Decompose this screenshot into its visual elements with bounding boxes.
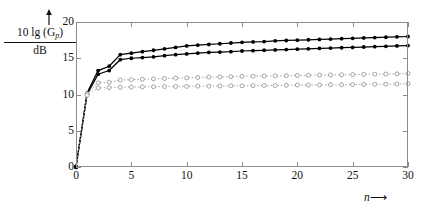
x-tick (297, 22, 298, 27)
x-tick (131, 22, 132, 27)
x-tick (187, 162, 188, 167)
plot-frame (76, 22, 408, 167)
y-tick (76, 58, 81, 59)
x-tick (131, 162, 132, 167)
y-tick-label: 10 (63, 89, 75, 101)
y-tick (403, 131, 408, 132)
y-tick (76, 95, 81, 96)
x-tick (242, 22, 243, 27)
x-tick (353, 162, 354, 167)
x-axis-title: n⟶ (364, 190, 386, 204)
y-tick (76, 131, 81, 132)
y-tick (403, 95, 408, 96)
x-tick (408, 162, 409, 167)
x-tick (76, 162, 77, 167)
plot-area: 05101520 051015202530 (76, 22, 408, 167)
x-tick (353, 22, 354, 27)
x-tick (408, 22, 409, 27)
figure-container: 10 lg (Gp) dB n⟶ 05101520 051015202530 (0, 0, 430, 209)
y-axis-arrow-icon (44, 9, 54, 25)
x-tick-label: 20 (292, 170, 304, 182)
x-tick-label: 30 (402, 170, 414, 182)
x-tick-label: 0 (73, 170, 79, 182)
x-tick (297, 162, 298, 167)
y-tick-label: 15 (63, 53, 75, 65)
y-tick (76, 167, 81, 168)
x-tick-label: 10 (181, 170, 193, 182)
y-axis-title-numerator: 10 lg (Gp) (4, 26, 76, 43)
arrow-right-icon: ⟶ (370, 191, 386, 203)
y-tick (403, 58, 408, 59)
x-tick (76, 22, 77, 27)
x-tick-label: 25 (347, 170, 359, 182)
x-tick (242, 162, 243, 167)
y-tick-label: 20 (63, 16, 75, 28)
x-tick (187, 22, 188, 27)
y-tick (403, 167, 408, 168)
x-tick-label: 5 (128, 170, 134, 182)
y-tick-label: 5 (68, 125, 74, 137)
x-tick-label: 15 (236, 170, 248, 182)
